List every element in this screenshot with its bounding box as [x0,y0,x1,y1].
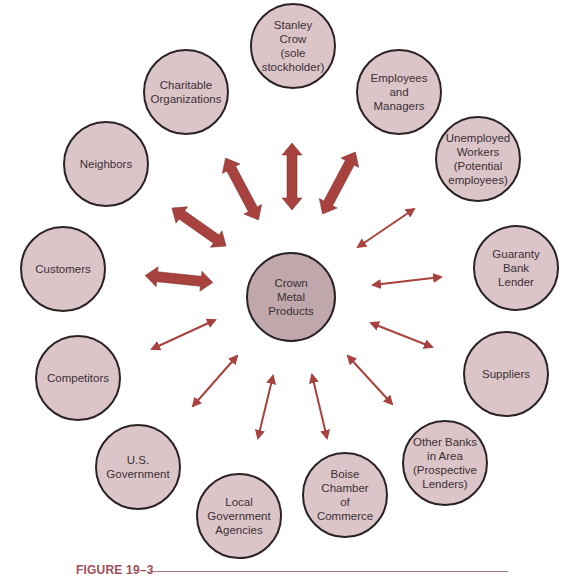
node-boise-chamber: Boise Chamber of Commerce [302,452,388,538]
node-label: Crown Metal Products [268,276,313,318]
node-label: Charitable Organizations [151,78,222,106]
node-label: Local Government Agencies [207,495,270,537]
node-label: Competitors [47,371,109,385]
thick-arrow-customers-icon [144,266,214,293]
thick-arrow-stanley-crow-icon [282,143,302,210]
thin-arrow-local-government-icon [258,376,273,438]
thin-arrow-competitors-icon [152,320,215,349]
thin-arrow-other-banks-icon [348,356,392,404]
thick-arrow-charitable-icon [217,153,268,224]
node-us-government: U.S. Government [95,424,181,510]
node-unemployed: Unemployed Workers (Potential employees) [435,116,521,202]
node-label: Unemployed Workers (Potential employees) [446,131,511,187]
node-local-government: Local Government Agencies [196,473,282,559]
node-customers: Customers [20,226,106,312]
node-neighbors: Neighbors [63,121,149,207]
stakeholder-diagram: Crown Metal Products Stanley Crow (sole … [0,0,579,584]
node-label: Employees and Managers [371,71,428,113]
figure-caption: FIGURE 19–3 [76,563,154,577]
node-label: Neighbors [80,157,132,171]
thin-arrow-suppliers-icon [371,323,432,347]
node-other-banks: Other Banks in Area (Prospective Lenders… [402,420,488,506]
node-crown-metal-products: Crown Metal Products [246,252,336,342]
node-employees: Employees and Managers [356,49,442,135]
node-label: Other Banks in Area (Prospective Lenders… [413,435,477,491]
node-charitable: Charitable Organizations [143,49,229,135]
thick-arrow-neighbors-icon [166,200,232,254]
node-guaranty-bank: Guaranty Bank Lender [473,225,559,311]
thin-arrow-unemployed-icon [358,209,414,247]
node-label: Boise Chamber of Commerce [317,467,373,523]
caption-rule [150,571,508,572]
node-label: Customers [35,262,91,276]
thin-arrow-guaranty-bank-icon [373,277,441,285]
node-stanley-crow: Stanley Crow (sole stockholder) [250,3,336,89]
thin-arrow-us-government-icon [193,356,237,406]
node-label: Guaranty Bank Lender [492,247,539,289]
node-suppliers: Suppliers [463,331,549,417]
thin-arrow-boise-chamber-icon [312,375,327,438]
node-competitors: Competitors [35,335,121,421]
thick-arrow-employees-icon [314,147,365,218]
node-label: Stanley Crow (sole stockholder) [262,18,325,74]
node-label: U.S. Government [106,453,169,481]
node-label: Suppliers [482,367,530,381]
